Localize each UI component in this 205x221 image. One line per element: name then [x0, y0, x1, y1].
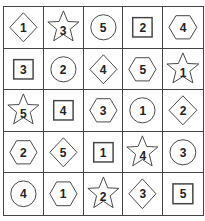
grid-cell: 4: [44, 90, 84, 132]
grid-cell: 3: [84, 90, 124, 132]
grid-cell: 3: [123, 173, 163, 215]
grid-cell: 3: [4, 49, 44, 91]
cell-number: 5: [4, 107, 43, 121]
cell-number: 2: [163, 104, 203, 118]
cell-number: 5: [123, 63, 162, 77]
cell-number: 3: [4, 63, 43, 77]
grid-cell: 1: [84, 132, 124, 174]
cell-number: 2: [84, 190, 123, 204]
cell-number: 2: [123, 21, 162, 35]
grid-cell: 2: [4, 132, 44, 174]
grid-cell: 1: [4, 7, 44, 49]
cell-number: 3: [123, 187, 162, 201]
cell-number: 1: [123, 104, 162, 118]
grid-cell: 5: [4, 90, 44, 132]
grid-cell: 4: [123, 132, 163, 174]
grid-cell: 2: [123, 7, 163, 49]
cell-number: 5: [44, 146, 83, 160]
grid-cell: 1: [163, 49, 203, 91]
cell-number: 4: [84, 63, 123, 77]
grid-cell: 5: [84, 7, 124, 49]
cell-number: 4: [163, 21, 203, 35]
grid-cell: 3: [44, 7, 84, 49]
cell-number: 2: [44, 63, 83, 77]
cell-number: 1: [44, 187, 83, 201]
cell-number: 5: [84, 21, 123, 35]
cell-number: 5: [163, 187, 203, 201]
grid-cell: 2: [163, 90, 203, 132]
cell-number: 4: [123, 149, 162, 163]
shape-number-grid: 1352432451543122514341235: [3, 6, 204, 216]
cell-number: 1: [4, 21, 43, 35]
grid-cell: 1: [123, 90, 163, 132]
cell-number: 2: [4, 146, 43, 160]
grid-cell: 4: [84, 49, 124, 91]
grid-cell: 1: [44, 173, 84, 215]
cell-number: 3: [44, 24, 83, 38]
grid-cell: 5: [44, 132, 84, 174]
cell-number: 1: [163, 66, 203, 80]
grid-cell: 2: [44, 49, 84, 91]
grid-cell: 4: [4, 173, 44, 215]
grid-cell: 4: [163, 7, 203, 49]
cell-number: 1: [84, 146, 123, 160]
grid-cell: 2: [84, 173, 124, 215]
cell-number: 3: [84, 104, 123, 118]
cell-number: 3: [163, 146, 203, 160]
grid-cell: 5: [123, 49, 163, 91]
grid-cell: 5: [163, 173, 203, 215]
cell-number: 4: [44, 104, 83, 118]
grid-cell: 3: [163, 132, 203, 174]
cell-number: 4: [4, 187, 43, 201]
